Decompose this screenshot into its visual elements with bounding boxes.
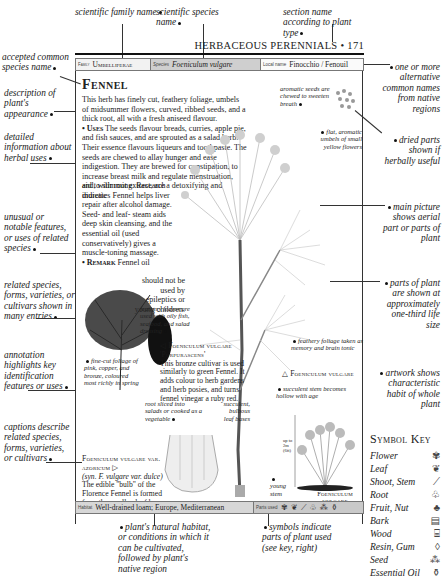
caption-purpurascens: ◁ Foeniculum vulgare 'Purpurascens' This… [160, 342, 255, 404]
annotation-family-name: scientific family name [75, 7, 164, 17]
caption-vulgare: △ Foeniculum vulgare [282, 370, 362, 379]
annotation-seeds: aromatic seeds are chewed to sweeten bre… [280, 85, 332, 107]
fruit-nut-icon: ♣ [433, 502, 440, 513]
key-label: Root [370, 489, 388, 500]
annotation-habitat: plant's natural habitat, or conditions i… [118, 522, 213, 574]
wood-icon: ⌸ [434, 528, 440, 540]
parts-used-cell: Parts used ✾ ❦ ⟋ ♧ ⁂ ⚱ [254, 502, 363, 513]
entry-body-continued: aid to slimming. Research indicates Fenn… [82, 181, 182, 267]
root-icon: ♧ [310, 503, 317, 512]
leader-line [40, 253, 75, 254]
key-row-seed: Seed⁂ [370, 553, 440, 566]
leader-line [28, 390, 75, 391]
annotation-stem: succulent stem becomes hollow with age [276, 385, 364, 400]
local-name-label: Local name [263, 62, 286, 67]
shoot-stem-icon: ⟋ [433, 476, 440, 488]
leader-line [46, 462, 82, 463]
annotation-herbal-uses: detailed information about herbal uses [4, 132, 74, 163]
header-rule [75, 53, 364, 55]
annotation-description: description of plant's appearance [4, 88, 74, 119]
remark-label: • Remark [82, 258, 116, 267]
key-row-flower: Flower✾ [370, 449, 440, 462]
caption-azoricum-title: Foeniculum vulgare var. azoricum ▷ [82, 455, 172, 473]
entry-title: Fennel [82, 77, 128, 93]
key-row-wood: Wood⌸ [370, 527, 440, 540]
uses-label: • Uses [82, 124, 103, 133]
key-label: Wood [370, 528, 392, 539]
annotation-section-name: section name according to plant type [283, 7, 363, 38]
leader-line [320, 205, 385, 206]
key-row-shoot-stem: Shoot, Stem⟋ [370, 475, 440, 488]
key-row-root: Root♧ [370, 488, 440, 501]
root-icon: ♧ [431, 489, 440, 500]
species-cell: Species Foeniculum vulgare [151, 59, 261, 70]
caption-purpurascens-text: This bronze cultivar is used similarly t… [160, 359, 245, 403]
annotation-main-picture: main picture shows aerial part or parts … [378, 202, 440, 244]
annotation-scale: up to 2m (6ft) [283, 438, 295, 453]
annotation-dried-parts: dried parts shown if herbally useful [378, 135, 440, 166]
caption-vulgare-title: △ Foeniculum vulgare [282, 370, 362, 379]
key-row-resin-gum: Resin, Gum◊ [370, 540, 440, 553]
flower-icon: ✾ [281, 503, 288, 512]
annotation-umbels: flat, aromatic umbels of small yellow fl… [314, 128, 362, 150]
key-row-leaf: Leaf❦ [370, 462, 440, 475]
leader-line [54, 111, 75, 112]
family-cell: Family Umbelliferae [76, 59, 151, 70]
resin-gum-icon: ◊ [435, 541, 440, 552]
footer-bar: Habitat Well-drained loam; Europe, Medit… [75, 501, 364, 514]
annotation-identification: annotation highlights key identification… [4, 350, 74, 392]
leader-line [330, 281, 380, 282]
habitat-value: Well-drained loam; Europe, Mediterranean [95, 503, 224, 512]
parts-used-label: Parts used [256, 505, 278, 510]
annotation-common-name: accepted common species name [2, 52, 72, 73]
uses-text-continued: aid to slimming. Research indicates Fenn… [82, 181, 172, 257]
whole-plant-habit-illustration [290, 415, 360, 495]
annotation-feathery-leaves: feathery leaves are used with oily fish,… [140, 305, 200, 335]
annotation-life-size: parts of plant are shown at approximatel… [376, 278, 440, 330]
key-label: Leaf [370, 463, 387, 474]
caption-azoricum: Foeniculum vulgare var. azoricum ▷ (syn.… [82, 455, 172, 508]
key-label: Bark [370, 515, 389, 526]
species-value: Foeniculum vulgare [172, 60, 232, 69]
local-name-value: Finocchio / Fenouil [289, 60, 348, 69]
key-label: Resin, Gum [370, 541, 415, 552]
annotation-young-stem: young stem [270, 475, 290, 497]
key-label: Seed [370, 554, 388, 565]
seed-icon: ⁂ [320, 503, 328, 512]
annotation-foliage-tonic: feathery foliage taken as memory and bra… [291, 337, 363, 352]
annotation-notable-features: unusual or notable features, or uses of … [4, 212, 74, 254]
habitat-label: Habitat [78, 505, 92, 510]
leaf-icon: ❦ [432, 463, 440, 474]
annotation-fine-cut-foliage: fine-cut foliage of pink, copper, and br… [84, 357, 139, 387]
key-row-bark: Bark▤ [370, 514, 440, 527]
essential-oil-icon: ⚱ [432, 567, 440, 578]
leader-line [30, 163, 75, 164]
local-name-cell: Local name Finocchio / Fenouil [261, 59, 363, 70]
seed-icon: ⁂ [430, 554, 440, 565]
key-label: Shoot, Stem [370, 476, 415, 487]
symbol-key-title: Symbol Key [370, 432, 431, 447]
key-label: Flower [370, 450, 398, 461]
family-value: Umbelliferae [93, 60, 133, 69]
habitat-cell: Habitat Well-drained loam; Europe, Medit… [76, 502, 254, 513]
essential-oil-icon: ⚱ [331, 503, 338, 512]
annotation-related-species: related species, forms, varieties, or cu… [4, 280, 76, 322]
flower-icon: ✾ [432, 450, 440, 461]
caption-purpurascens-title: ◁ Foeniculum vulgare 'Purpurascens' [160, 342, 255, 360]
annotation-species-name: scientific species name [156, 7, 226, 28]
key-label: Essential Oil [370, 567, 420, 578]
bark-icon: ▤ [431, 515, 440, 526]
info-bar: Family Umbelliferae Species Foeniculum v… [75, 58, 364, 71]
symbol-key-list: Flower✾ Leaf❦ Shoot, Stem⟋ Root♧ Fruit, … [370, 449, 440, 578]
running-head: HERBACEOUS PERENNIALS • 171 [75, 40, 364, 51]
annotation-habit: artwork shows characteristic habit of wh… [376, 368, 440, 410]
annotation-alternative-names: one or more alternative common names fro… [368, 62, 440, 114]
annotation-symbols: symbols indicate parts of plant used (se… [262, 522, 334, 553]
family-label: Family [78, 62, 90, 67]
key-label: Fruit, Nut [370, 502, 408, 513]
remark-text: Fennel oil [116, 258, 150, 267]
key-row-essential-oil: Essential Oil⚱ [370, 566, 440, 578]
leaf-icon: ❦ [291, 503, 298, 512]
species-label: Species [153, 62, 169, 67]
annotation-captions: captions describe related species, forms… [4, 422, 74, 464]
